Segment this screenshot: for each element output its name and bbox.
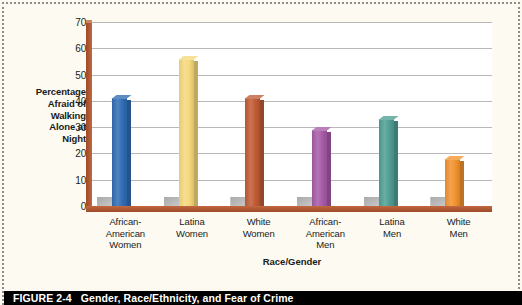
y-axis-line: [86, 22, 92, 209]
bar-side: [394, 121, 398, 206]
x-axis-category-label-line: Men: [423, 228, 495, 240]
bar-top: [112, 95, 131, 99]
x-axis-title: Race/Gender: [92, 256, 492, 267]
figure-caption-number: FIGURE 2-4: [13, 292, 72, 304]
y-axis-tick-label: 40: [62, 95, 86, 106]
bar-side: [194, 61, 198, 206]
bar[interactable]: [245, 98, 260, 206]
x-axis-category-label-line: White: [423, 216, 495, 228]
bar-side: [127, 100, 131, 206]
bar-group[interactable]: [425, 22, 492, 206]
bar-side: [460, 161, 464, 206]
figure-caption-title: Gender, Race/Ethnicity, and Fear of Crim…: [81, 292, 294, 304]
bar[interactable]: [379, 119, 394, 206]
figure-root: Percentage Afraid of Walking Alone at Ni…: [0, 0, 522, 305]
bar-chart: Percentage Afraid of Walking Alone at Ni…: [0, 0, 510, 282]
x-axis-category-label-line: Women: [89, 239, 161, 251]
y-axis-tick-label: 50: [62, 69, 86, 80]
y-axis-tick-label: 0: [62, 201, 86, 212]
plot-area: [92, 22, 492, 206]
x-axis-category-label: LatinaWomen: [156, 216, 228, 239]
bar-group[interactable]: [359, 22, 426, 206]
bar-face: [312, 130, 327, 206]
bar-face: [379, 119, 394, 206]
bar-face: [112, 98, 127, 206]
bar[interactable]: [312, 130, 327, 206]
figure-caption-bar: FIGURE 2-4Gender, Race/Ethnicity, and Fe…: [4, 291, 522, 305]
bar-side: [260, 100, 264, 206]
x-axis-category-label: African-AmericanMen: [289, 216, 361, 251]
bar-top: [312, 127, 331, 131]
x-axis-line: [86, 206, 492, 212]
y-axis-tick-label: 70: [62, 17, 86, 28]
bar-top: [179, 56, 198, 60]
x-axis-category-label-line: Women: [223, 228, 295, 240]
y-axis-tick-label: 10: [62, 174, 86, 185]
bar[interactable]: [179, 59, 194, 206]
y-axis-tick-label: 30: [62, 122, 86, 133]
bar[interactable]: [445, 159, 460, 206]
bar-side: [327, 132, 331, 206]
y-axis-tick-label: 20: [62, 148, 86, 159]
x-axis-category-label-line: American: [89, 228, 161, 240]
x-axis-category-label: African-AmericanWomen: [89, 216, 161, 251]
bar-face: [445, 159, 460, 206]
y-axis-tick-labels: 010203040506070: [62, 22, 86, 206]
x-axis-category-label-line: African-: [89, 216, 161, 228]
bar-face: [245, 98, 260, 206]
y-axis-tick-label: 60: [62, 43, 86, 54]
x-axis-category-label-line: American: [289, 228, 361, 240]
x-axis-category-label: WhiteWomen: [223, 216, 295, 239]
x-axis-category-label-line: Women: [156, 228, 228, 240]
bars-layer: [92, 22, 492, 206]
bar-top: [445, 156, 464, 160]
x-axis-category-label-line: Latina: [356, 216, 428, 228]
x-axis-category-label-line: White: [223, 216, 295, 228]
x-axis-category-label-line: Men: [289, 239, 361, 251]
bar-face: [179, 59, 194, 206]
bar-top: [245, 95, 264, 99]
bar-group[interactable]: [292, 22, 359, 206]
bar-group[interactable]: [159, 22, 226, 206]
x-axis-category-label-line: Latina: [156, 216, 228, 228]
x-axis-category-label-line: Men: [356, 228, 428, 240]
x-axis-category-labels: African-AmericanWomenLatinaWomenWhiteWom…: [92, 216, 492, 260]
x-axis-category-label: WhiteMen: [423, 216, 495, 239]
bar-group[interactable]: [225, 22, 292, 206]
x-axis-category-label: LatinaMen: [356, 216, 428, 239]
bar-group[interactable]: [92, 22, 159, 206]
bar-top: [379, 116, 398, 120]
y-axis-cap: [86, 20, 92, 23]
bar[interactable]: [112, 98, 127, 206]
x-axis-category-label-line: African-: [289, 216, 361, 228]
figure-caption: FIGURE 2-4Gender, Race/Ethnicity, and Fe…: [13, 292, 294, 304]
